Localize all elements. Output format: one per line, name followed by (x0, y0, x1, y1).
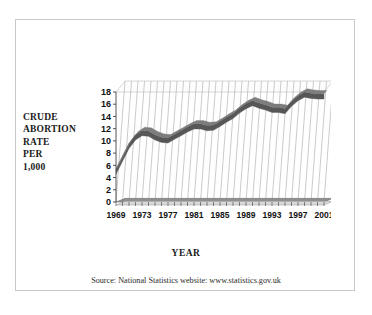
y-axis (113, 92, 116, 202)
y-tick-label: 2 (106, 185, 111, 195)
x-tick-label: 1977 (159, 210, 178, 220)
y-axis-title-line-5: 1,000 (23, 161, 91, 173)
data-series-ribbon (116, 89, 327, 175)
y-axis-title-line-4: PER (23, 148, 91, 160)
y-tick-labels: 024681012141618 (101, 87, 111, 207)
y-tick-label: 12 (101, 124, 111, 134)
y-tick-label: 10 (101, 136, 111, 146)
plot-back-wall (116, 81, 331, 92)
y-axis-title-line-2: ABORTION (23, 123, 91, 135)
y-tick-label: 0 (106, 197, 111, 207)
x-tick-label: 1985 (211, 210, 230, 220)
x-tick-label: 1969 (107, 210, 126, 220)
x-tick-label: 2001 (315, 210, 331, 220)
y-tick-label: 16 (101, 99, 111, 109)
y-tick-label: 4 (106, 173, 111, 183)
y-tick-label: 14 (101, 112, 111, 122)
y-tick-label: 18 (101, 87, 111, 97)
y-tick-label: 8 (106, 148, 111, 158)
y-axis-title-line-1: CRUDE (23, 111, 91, 123)
y-tick-label: 6 (106, 161, 111, 171)
line-chart: 024681012141618 196919731977198119851989… (86, 74, 331, 226)
y-axis-title-line-3: RATE (23, 136, 91, 148)
source-note: Source: National Statistics website: www… (0, 276, 372, 285)
x-tick-label: 1997 (289, 210, 308, 220)
x-tick-label: 1973 (133, 210, 152, 220)
chart-svg: 024681012141618 196919731977198119851989… (86, 74, 331, 226)
x-tick-label: 1989 (237, 210, 256, 220)
x-tick-labels: 196919731977198119851989199319972001 (107, 210, 331, 220)
x-tick-label: 1981 (185, 210, 204, 220)
y-axis-title: CRUDE ABORTION RATE PER 1,000 (23, 111, 91, 173)
chart-page: CRUDE ABORTION RATE PER 1,000 0246810121… (0, 0, 372, 315)
x-axis-title: YEAR (0, 248, 372, 258)
x-tick-label: 1993 (263, 210, 282, 220)
